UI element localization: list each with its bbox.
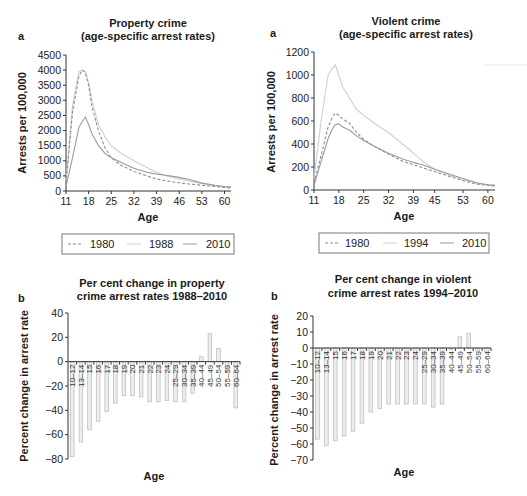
chart-title-line2: crime arrest rates 1988–2010: [77, 290, 227, 302]
y-tick-label: 4500: [38, 49, 62, 61]
legend-property: 1980 1988 2010: [62, 234, 234, 254]
category-label: 60–64: [232, 364, 241, 387]
category-label: 25–29: [420, 350, 429, 373]
x-tick-label: 53: [196, 195, 208, 207]
y-tick-label: −30: [290, 390, 308, 402]
chart-violent-crime-rates: a Violent crime (age-specific arrest rat…: [265, 15, 495, 222]
y-tick-label: 40: [51, 307, 63, 319]
x-tick-label: 39: [408, 194, 420, 206]
series-line-1988: [66, 70, 231, 187]
x-axis-label: Age: [394, 210, 415, 222]
panel-label-b: b: [271, 290, 278, 302]
x-tick-label: 25: [358, 194, 370, 206]
y-tick-label: 1000: [38, 154, 62, 166]
y-tick-label: −10: [290, 358, 308, 370]
y-tick-label: 1200: [286, 46, 310, 58]
category-label: 35–39: [438, 350, 447, 373]
y-tick-label: 600: [291, 115, 309, 127]
category-label: 16: [340, 350, 349, 359]
category-label: 45–49: [456, 350, 465, 373]
y-tick-label: 2500: [38, 109, 62, 121]
chart-title-line2: crime arrest rates 1994–2010: [328, 287, 478, 299]
series-line-2010: [314, 124, 495, 185]
y-tick-label: −70: [290, 454, 308, 466]
panel-label-a: a: [270, 27, 277, 39]
x-tick-label: 25: [105, 195, 117, 207]
category-label: 55–59: [474, 350, 483, 373]
bar-45–49: [458, 337, 462, 348]
y-tick-label: 1500: [38, 139, 62, 151]
bar-40–44: [200, 357, 204, 362]
x-tick-label: 11: [61, 195, 72, 207]
legend-label: 1980: [90, 238, 114, 250]
category-label: 23: [402, 350, 411, 359]
y-tick-label: −40: [290, 406, 308, 418]
y-tick-label: −60: [45, 428, 63, 440]
bars: 10–1213–141516171819202122232425–2930–34…: [68, 334, 241, 457]
category-label: 40–44: [447, 350, 456, 373]
x-axis-label: Age: [144, 470, 165, 482]
legend-violent: 1980 1994 2010: [319, 233, 489, 253]
chart-title-line2: (age-specific arrest rates): [339, 28, 473, 40]
y-tick-label: 400: [291, 138, 309, 150]
chart-title-line2: (age-specific arrest rates): [81, 30, 215, 42]
series-line-1980: [314, 113, 495, 186]
category-label: 21: [385, 350, 394, 359]
plot-lines: [66, 70, 231, 188]
axes: −80−60−40−2002040: [45, 307, 68, 465]
x-tick-label: 60: [482, 194, 494, 206]
category-label: 60–64: [483, 350, 492, 373]
y-tick-label: −20: [45, 380, 63, 392]
bar-15: [333, 348, 337, 441]
axes: 0200400600800100012001118253239455360: [286, 46, 495, 207]
bar-45–49: [208, 334, 212, 362]
y-tick-label: 200: [291, 161, 309, 173]
panel-label-b: b: [18, 292, 25, 304]
x-tick-label: 32: [383, 194, 395, 206]
y-axis-label: Percent change in arrest rate: [268, 314, 280, 466]
category-label: 50–54: [465, 350, 474, 373]
category-label: 22: [394, 350, 403, 359]
x-axis-label: Age: [138, 211, 159, 223]
y-tick-label: 1000: [286, 69, 310, 81]
bar-50–54: [467, 334, 471, 348]
figure-canvas: a Property crime (age-specific arrest ra…: [0, 0, 527, 496]
chart-title-line1: Property crime: [109, 17, 187, 29]
y-tick-label: −40: [45, 404, 63, 416]
y-tick-label: −20: [290, 374, 308, 386]
y-tick-label: 0: [302, 342, 308, 354]
bar-16: [342, 348, 346, 436]
chart-property-crime-rates: a Property crime (age-specific arrest ra…: [16, 17, 231, 223]
y-axis-label: Arrests per 100,000: [16, 72, 28, 174]
category-label: 30–34: [429, 350, 438, 373]
category-label: 18: [358, 350, 367, 359]
chart-title-line1: Per cent change in violent: [335, 273, 472, 285]
y-tick-label: 800: [291, 92, 309, 104]
legend-label: 1994: [404, 237, 428, 249]
y-axis-label: Percent change in arrest rate: [18, 310, 30, 462]
panel-label-a: a: [18, 30, 25, 42]
legend-label: 2010: [462, 237, 486, 249]
y-tick-label: 10: [296, 326, 308, 338]
y-axis-label: Arrests per 100,000: [265, 71, 277, 173]
category-label: 24: [411, 350, 420, 359]
category-label: 19: [367, 350, 376, 359]
x-tick-label: 32: [128, 195, 140, 207]
x-tick-label: 45: [429, 194, 441, 206]
bar-50–54: [217, 348, 221, 361]
chart-violent-percent-change: b Per cent change in violent crime arres…: [268, 273, 492, 478]
plot-lines: [314, 65, 495, 186]
chart-title-line1: Violent crime: [372, 15, 441, 27]
category-label: 13–14: [322, 350, 331, 373]
y-tick-label: −80: [45, 453, 63, 465]
y-tick-label: −60: [290, 438, 308, 450]
axes: −70−60−50−40−30−20−1001020: [290, 310, 313, 466]
y-tick-label: 2000: [38, 124, 62, 136]
category-label: 17: [349, 350, 358, 359]
legend-label: 2010: [206, 238, 230, 250]
x-tick-label: 53: [457, 194, 469, 206]
y-tick-label: 20: [51, 331, 63, 343]
x-tick-label: 11: [309, 194, 320, 206]
chart-property-percent-change: b Per cent change in property crime arre…: [18, 277, 241, 482]
category-label: 10–12: [313, 350, 322, 373]
